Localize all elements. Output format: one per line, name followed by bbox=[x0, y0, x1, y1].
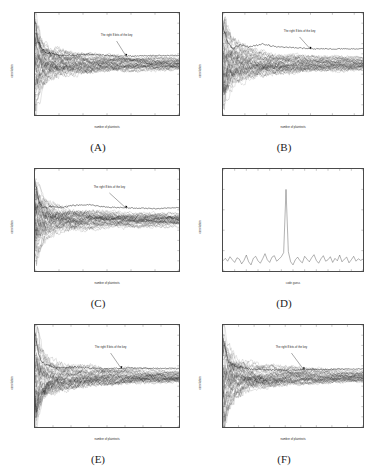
trace-canvas-a bbox=[35, 13, 179, 115]
x-axis-label-b: number of plaintexts bbox=[222, 125, 364, 129]
panel-a: correlation The right 8 bits of the key-… bbox=[8, 4, 188, 156]
y-axis-label-b: correlation bbox=[199, 64, 202, 77]
correct-key-annotation-e: The right 8 bits of the key bbox=[95, 346, 127, 349]
axes-c: The right 8 bits of the key-0.5-0.4-0.3-… bbox=[34, 168, 180, 272]
y-axis-label-c: correlation bbox=[11, 220, 14, 233]
panel-caption-f: (F) bbox=[196, 450, 372, 468]
axes-a: The right 8 bits of the key-0.5-0.4-0.3-… bbox=[34, 12, 180, 116]
trace-canvas-d bbox=[223, 169, 363, 271]
plot-area-b: correlation The right 8 bits of the key-… bbox=[196, 4, 372, 138]
plot-area-e: correlation The right 8 bits of the key-… bbox=[8, 316, 188, 450]
panel-caption-d: (D) bbox=[196, 294, 372, 312]
x-axis-label-f: number of plaintexts bbox=[222, 437, 364, 441]
panel-b: correlation The right 8 bits of the key-… bbox=[196, 4, 372, 156]
y-axis-label-e: correlation bbox=[11, 376, 14, 389]
correct-key-annotation-c: The right 8 bits of the key bbox=[94, 186, 126, 189]
x-axis-label-d: code guess bbox=[222, 281, 364, 285]
plot-area-d: correlation 00.10.20.30.40.5051015202530… bbox=[196, 160, 372, 294]
x-axis-label-a: number of plaintexts bbox=[34, 125, 180, 129]
correct-key-annotation-a: The right 8 bits of the key bbox=[101, 34, 133, 37]
panel-c: correlation The right 8 bits of the key-… bbox=[8, 160, 188, 312]
panel-e: correlation The right 8 bits of the key-… bbox=[8, 316, 188, 468]
correlation-figure: correlation The right 8 bits of the key-… bbox=[0, 0, 377, 471]
panel-caption-e: (E) bbox=[8, 450, 188, 468]
plot-area-f: correlation The right 8 bits of the key-… bbox=[196, 316, 372, 450]
x-axis-label-e: number of plaintexts bbox=[34, 437, 180, 441]
panel-f: correlation The right 8 bits of the key-… bbox=[196, 316, 372, 468]
panel-caption-a: (A) bbox=[8, 138, 188, 156]
y-axis-label-d: correlation bbox=[199, 220, 202, 233]
axes-b: The right 8 bits of the key-0.5-0.4-0.3-… bbox=[222, 12, 364, 116]
axes-d: 00.10.20.30.40.5051015202530354045505560 bbox=[222, 168, 364, 272]
trace-canvas-e bbox=[35, 325, 179, 427]
axes-e: The right 8 bits of the key-0.5-0.4-0.3-… bbox=[34, 324, 180, 428]
panel-caption-b: (B) bbox=[196, 138, 372, 156]
trace-canvas-f bbox=[223, 325, 363, 427]
trace-canvas-c bbox=[35, 169, 179, 271]
y-axis-label-a: correlation bbox=[11, 64, 14, 77]
y-axis-label-f: correlation bbox=[199, 376, 202, 389]
plot-area-a: correlation The right 8 bits of the key-… bbox=[8, 4, 188, 138]
correct-key-annotation-f: The right 8 bits of the key bbox=[276, 346, 308, 349]
trace-canvas-b bbox=[223, 13, 363, 115]
panel-caption-c: (C) bbox=[8, 294, 188, 312]
x-axis-label-c: number of plaintexts bbox=[34, 281, 180, 285]
panel-d: correlation 00.10.20.30.40.5051015202530… bbox=[196, 160, 372, 312]
correct-key-annotation-b: The right 8 bits of the key bbox=[284, 30, 316, 33]
plot-area-c: correlation The right 8 bits of the key-… bbox=[8, 160, 188, 294]
axes-f: The right 8 bits of the key-0.5-0.4-0.3-… bbox=[222, 324, 364, 428]
